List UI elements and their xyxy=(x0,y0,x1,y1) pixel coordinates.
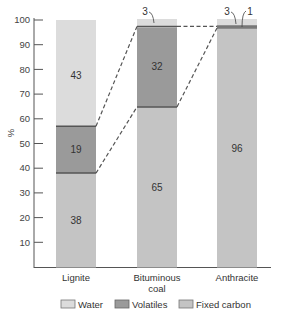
tick-70: 70 xyxy=(19,88,30,99)
tick-10: 10 xyxy=(19,237,30,248)
legend-swatch-fixed-carbon xyxy=(179,300,193,308)
tick-60: 60 xyxy=(19,113,30,124)
tick-100: 100 xyxy=(14,14,30,25)
legend-swatch-water xyxy=(61,300,75,308)
tick-50: 50 xyxy=(19,138,30,149)
label-anth-fc: 96 xyxy=(231,143,243,154)
legend-water: Water xyxy=(78,299,103,310)
tick-20: 20 xyxy=(19,212,30,223)
y-ticks xyxy=(34,20,43,242)
category-lignite: Lignite xyxy=(62,272,90,283)
label-anth-water: 3 xyxy=(224,6,230,17)
label-anth-vol: 1 xyxy=(247,6,253,17)
bar-lignite: 38 19 43 xyxy=(56,20,96,268)
bar-anthracite: 96 3 1 xyxy=(217,6,257,268)
tick-80: 80 xyxy=(19,64,30,75)
y-tick-labels: 10 20 30 40 50 60 70 80 90 100 xyxy=(14,14,30,247)
tick-30: 30 xyxy=(19,187,30,198)
label-lignite-water: 43 xyxy=(70,70,82,81)
bar-bituminous: 65 32 3 xyxy=(137,6,177,268)
legend-swatch-volatiles xyxy=(115,300,129,308)
legend: Water Volatiles Fixed carbon xyxy=(61,299,251,310)
legend-fixed-carbon: Fixed carbon xyxy=(196,299,251,310)
coal-composition-chart: 10 20 30 40 50 60 70 80 90 100 % 38 19 4… xyxy=(0,0,285,312)
legend-volatiles: Volatiles xyxy=(132,299,168,310)
category-anthracite: Anthracite xyxy=(216,272,259,283)
tick-90: 90 xyxy=(19,39,30,50)
category-bituminous: Bituminous xyxy=(134,272,181,283)
category-bituminous-2: coal xyxy=(148,283,165,294)
label-lignite-vol: 19 xyxy=(70,144,82,155)
label-lignite-fc: 38 xyxy=(70,215,82,226)
segment-water xyxy=(217,19,257,25)
y-axis-label: % xyxy=(5,128,16,137)
label-bit-water: 3 xyxy=(142,6,148,17)
tick-40: 40 xyxy=(19,162,30,173)
label-bit-fc: 65 xyxy=(151,182,163,193)
label-bit-vol: 32 xyxy=(151,61,163,72)
